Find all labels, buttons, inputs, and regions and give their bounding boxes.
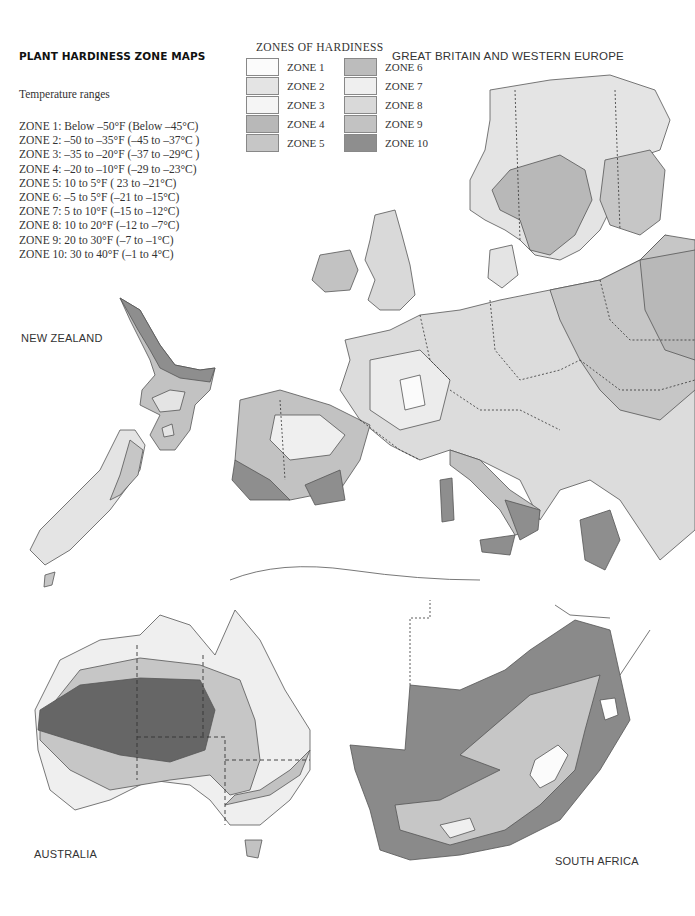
temperature-range-item: ZONE 8: 10 to 20°F (–12 to –7°C) [19, 218, 199, 232]
temperature-range-item: ZONE 9: 20 to 30°F (–7 to –1°C) [19, 233, 199, 247]
temperature-range-item: ZONE 3: –35 to –20°F (–37 to –29°C ) [19, 147, 199, 161]
legend-title: ZONES OF HARDINESS [256, 41, 383, 53]
australia-label: AUSTRALIA [34, 848, 97, 860]
temperature-range-item: ZONE 6: –5 to 5°F (–21 to –15°C) [19, 190, 199, 204]
page-title: PLANT HARDINESS ZONE MAPS [19, 50, 206, 62]
south-africa-map [330, 590, 695, 880]
temperature-range-item: ZONE 5: 10 to 5°F ( 23 to –21°C) [19, 176, 199, 190]
temperature-range-item: ZONE 10: 30 to 40°F (–1 to 4°C) [19, 247, 199, 261]
temperature-ranges-heading: Temperature ranges [19, 88, 110, 100]
australia-map [0, 600, 340, 860]
temperature-range-item: ZONE 4: –20 to –10°F (–29 to –23°C) [19, 162, 199, 176]
south-africa-label: SOUTH AFRICA [555, 855, 639, 867]
europe-map [220, 60, 695, 600]
temperature-range-item: ZONE 1: Below –50°F (Below –45°C) [19, 119, 199, 133]
new-zealand-map [0, 290, 240, 610]
temperature-range-item: ZONE 7: 5 to 10°F (–15 to –12°C) [19, 204, 199, 218]
temperature-ranges-list: ZONE 1: Below –50°F (Below –45°C) ZONE 2… [19, 119, 199, 261]
temperature-range-item: ZONE 2: –50 to –35°F (–45 to –37°C ) [19, 133, 199, 147]
